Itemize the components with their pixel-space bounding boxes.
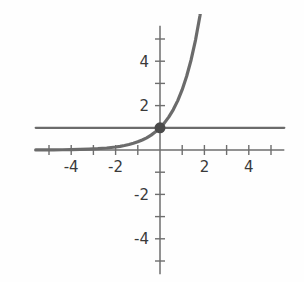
y-tick-label: 2 bbox=[139, 97, 149, 115]
y-tick-label: -2 bbox=[134, 186, 149, 204]
x-tick-label: 2 bbox=[200, 158, 210, 176]
plot-background bbox=[0, 0, 304, 282]
x-tick-label: 4 bbox=[244, 158, 254, 176]
x-tick-label: -2 bbox=[108, 158, 123, 176]
chart-figure: -4-22442-2-4 bbox=[0, 0, 304, 282]
x-tick-label: -4 bbox=[64, 158, 79, 176]
cartesian-plot: -4-22442-2-4 bbox=[0, 0, 304, 282]
y-tick-label: -4 bbox=[134, 230, 149, 248]
y-intercept-marker bbox=[155, 122, 166, 133]
y-tick-label: 4 bbox=[139, 53, 149, 71]
data-points-layer bbox=[155, 122, 166, 133]
